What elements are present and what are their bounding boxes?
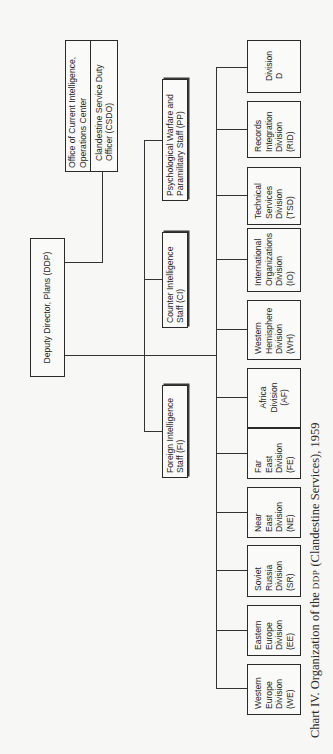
io-division-box: International Organizations Division (IO… <box>247 228 301 292</box>
fi-staff-box: Foreign Intelligence Staff (FI) <box>162 385 188 478</box>
io-line3: Division <box>274 256 285 286</box>
fi-line1: Foreign Intelligence <box>165 390 176 473</box>
we-division-box: Western Europe Division (WE) <box>247 664 301 715</box>
division-bus <box>216 67 217 689</box>
ci-staff-box: Counter Intelligence Staff (CI) <box>162 232 188 328</box>
rid-line1: Records <box>253 120 264 152</box>
we-line2: Europe <box>264 681 275 709</box>
division-d-box: Division D <box>247 40 301 93</box>
fe-line2: East <box>264 456 275 473</box>
sr-line2: Russia <box>264 565 275 591</box>
fe-line4: (FE) <box>285 456 296 473</box>
ee-line2: Europe <box>264 622 275 650</box>
pp-line2: Paramilitary Staff (PP) <box>175 84 186 196</box>
caption-prefix: Chart IV. Organization of the <box>308 589 322 738</box>
io-line1: International <box>253 239 264 286</box>
division-d-line1: Division <box>264 51 275 81</box>
ee-line3: Division <box>274 620 285 650</box>
fi-line2: Staff (FI) <box>175 390 186 473</box>
ee-line1: Eastern <box>253 620 264 650</box>
af-line2: Division <box>269 382 280 412</box>
ci-line2: Staff (CI) <box>175 237 186 323</box>
ddp-box: Deputy Director, Plans (DDP) <box>30 238 65 377</box>
oci-title-line1: Office of Current Intelligence, <box>67 44 78 168</box>
tsd-line4: (TSD) <box>285 196 296 219</box>
io-line4: (IO) <box>285 271 296 286</box>
connector-pp <box>144 140 162 141</box>
ddp-label: Deputy Director, Plans (DDP) <box>42 252 53 364</box>
connector-oci-ddp <box>65 262 102 263</box>
connector-sr <box>216 570 247 571</box>
csdo-section: Clandestine Service Duty Officer (CSDO) <box>91 41 118 171</box>
oci-title-line2: Operations Center <box>78 44 89 168</box>
fe-division-box: Far East Division (FE) <box>247 428 301 479</box>
connector-fi <box>144 431 162 432</box>
rid-line2: Integration <box>264 111 275 152</box>
fe-line1: Far <box>253 460 264 473</box>
fe-line3: Division <box>274 443 285 473</box>
wh-line1: Western <box>253 322 264 354</box>
connector-fe <box>216 453 247 454</box>
org-chart-page: Office of Current Intelligence, Operatio… <box>0 0 333 754</box>
connector-wh <box>216 329 247 330</box>
wh-line3: Division <box>274 324 285 354</box>
connector-ee <box>216 630 247 631</box>
connector-af <box>216 397 247 398</box>
ne-division-box: Near East Division (NE) <box>247 487 301 538</box>
connector-ne <box>216 512 247 513</box>
af-division-box: Africa Division (AF) <box>247 368 301 428</box>
csdo-line2: Officer (CSDO) <box>104 51 115 161</box>
pp-line1: Psychological Warfare and <box>165 84 176 196</box>
connector-ci <box>144 279 162 280</box>
we-line4: (WE) <box>285 689 296 709</box>
tsd-line2: Services <box>264 186 275 219</box>
connector-tsd <box>216 195 247 196</box>
ee-line4: (EE) <box>285 633 296 650</box>
af-line1: Africa <box>258 387 269 409</box>
ne-line3: Division <box>274 502 285 532</box>
ci-line1: Counter Intelligence <box>165 237 176 323</box>
rid-division-box: Records Integration Division (RID) <box>247 101 301 158</box>
oci-header: Office of Current Intelligence, Operatio… <box>66 41 91 171</box>
connector-d <box>216 67 247 68</box>
oci-operations-center-box: Office of Current Intelligence, Operatio… <box>65 40 118 172</box>
caption-suffix: (Clandestine Services), 1959 <box>308 422 322 569</box>
connector-ddp-main <box>65 355 216 356</box>
chart-caption: Chart IV. Organization of the DDP (Cland… <box>308 422 323 738</box>
ne-line1: Near <box>253 513 264 532</box>
csdo-line1: Clandestine Service Duty <box>94 51 105 161</box>
tsd-line1: Technical <box>253 183 264 219</box>
ee-division-box: Eastern Europe Division (EE) <box>247 605 301 656</box>
we-line1: Western <box>253 677 264 709</box>
caption-abbr: DDP <box>311 570 321 590</box>
wh-division-box: Western Hemisphere Division (WH) <box>247 300 301 360</box>
connector-rid <box>216 129 247 130</box>
pp-staff-box: Psychological Warfare and Paramilitary S… <box>162 79 188 201</box>
we-line3: Division <box>274 679 285 709</box>
connector-we <box>216 688 247 689</box>
division-d-line2: D <box>274 73 285 87</box>
sr-line4: (SR) <box>285 573 296 591</box>
sr-division-box: Soviet Russia Division (SR) <box>247 545 301 597</box>
rid-line4: (RID) <box>285 131 296 152</box>
af-line3: (AF) <box>279 389 290 406</box>
sr-line1: Soviet <box>253 567 264 591</box>
ne-line4: (NE) <box>285 514 296 532</box>
wh-line4: (WH) <box>285 334 296 354</box>
staff-bus <box>144 140 145 432</box>
tsd-line3: Division <box>274 189 285 219</box>
tsd-division-box: Technical Services Division (TSD) <box>247 167 301 225</box>
ne-line2: East <box>264 515 275 532</box>
rid-line3: Division <box>274 122 285 152</box>
sr-line3: Division <box>274 561 285 591</box>
connector-io <box>216 259 247 260</box>
wh-line2: Hemisphere <box>264 308 275 354</box>
connector-oci <box>102 172 103 263</box>
io-line2: Organizations <box>264 233 275 286</box>
